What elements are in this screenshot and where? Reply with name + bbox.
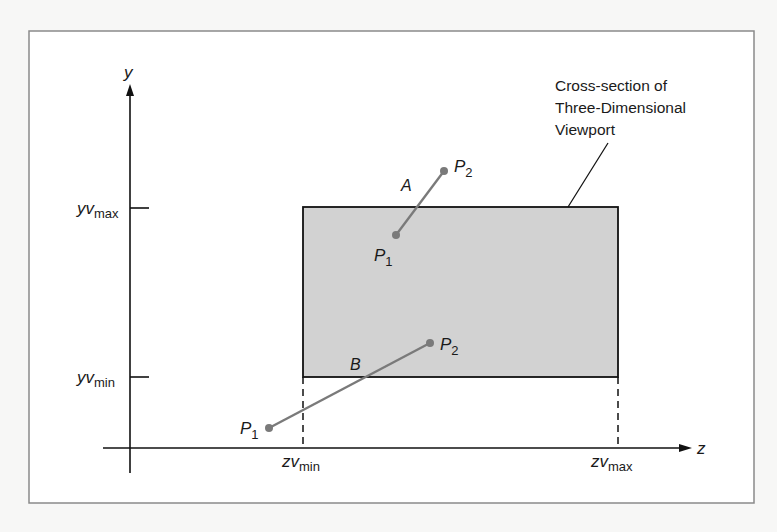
segment-a-label: A: [400, 177, 412, 194]
y-axis-label: y: [123, 63, 134, 82]
viewport-rectangle: [303, 207, 618, 377]
clipping-diagram: y z yvmax yvmin zvmin zvmax Cross-sectio…: [0, 0, 777, 532]
segment-b-p1-point: [265, 424, 273, 432]
segment-a-p1-point: [392, 231, 400, 239]
segment-b-label: B: [350, 356, 361, 373]
z-axis-label: z: [696, 439, 706, 458]
segment-a-p2-point: [440, 167, 448, 175]
segment-b-p2-point: [426, 339, 434, 347]
